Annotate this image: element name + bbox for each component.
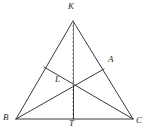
vertex-label-b: B	[3, 113, 9, 122]
vertex-label-t: T	[69, 119, 74, 128]
vertex-label-c: C	[136, 116, 142, 125]
vertex-label-l: L	[55, 75, 60, 84]
vertex-label-a: A	[108, 55, 114, 64]
geometry-canvas	[0, 0, 147, 131]
segment-k-b	[16, 21, 73, 119]
geometry-figure: K B C A L T	[0, 0, 147, 131]
vertex-label-k: K	[68, 2, 74, 11]
